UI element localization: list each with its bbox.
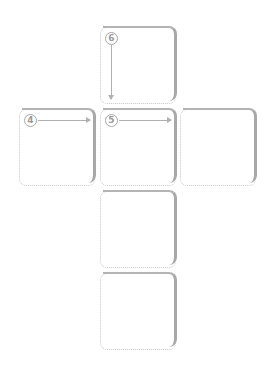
number-badge: 6 [105, 32, 118, 45]
arrow-down-icon [111, 45, 112, 99]
face-right [180, 109, 256, 186]
face-below-1 [100, 191, 176, 268]
arrow-right-icon [119, 120, 171, 121]
number-badge: 4 [24, 114, 37, 127]
number-badge: 5 [105, 114, 118, 127]
face-top: 6 [100, 27, 176, 104]
arrow-right-icon [38, 120, 90, 121]
face-center: 5 [100, 109, 176, 186]
face-below-2 [100, 273, 176, 350]
face-left: 4 [19, 109, 95, 186]
